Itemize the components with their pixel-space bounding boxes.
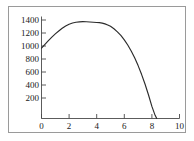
y-tick-label-1000: 1000 bbox=[21, 41, 40, 51]
x-tick-label-10: 10 bbox=[175, 121, 185, 131]
y-tick-labels: 1400 1200 1000 800 600 400 200 bbox=[21, 15, 40, 103]
x-tick-label-8: 8 bbox=[150, 121, 155, 131]
y-tick-label-800: 800 bbox=[26, 54, 40, 64]
chart-plot: 1400 1200 1000 800 600 400 200 0 2 4 6 8… bbox=[9, 7, 185, 132]
y-tick-marks bbox=[42, 20, 47, 98]
figure-frame: 1400 1200 1000 800 600 400 200 0 2 4 6 8… bbox=[8, 6, 186, 133]
y-tick-label-1200: 1200 bbox=[21, 28, 40, 38]
x-tick-label-4: 4 bbox=[94, 121, 99, 131]
x-tick-marks bbox=[42, 114, 180, 119]
y-tick-label-1400: 1400 bbox=[21, 15, 40, 25]
data-curve bbox=[42, 22, 157, 119]
x-tick-label-6: 6 bbox=[122, 121, 127, 131]
y-tick-label-600: 600 bbox=[26, 67, 40, 77]
x-tick-label-0: 0 bbox=[39, 121, 44, 131]
axes-group bbox=[42, 17, 180, 119]
x-tick-label-2: 2 bbox=[67, 121, 72, 131]
y-tick-label-400: 400 bbox=[26, 80, 40, 90]
y-tick-label-200: 200 bbox=[26, 93, 40, 103]
x-tick-labels: 0 2 4 6 8 10 bbox=[39, 121, 184, 131]
